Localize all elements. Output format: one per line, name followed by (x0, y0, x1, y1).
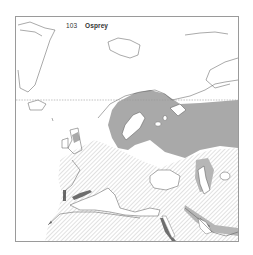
lake-ladoga (155, 122, 161, 126)
osprey-distribution-map (0, 0, 253, 255)
species-name: Osprey (85, 22, 108, 29)
species-number: 103 (66, 22, 77, 29)
map-title: 103 Osprey (66, 22, 108, 29)
lake-onega (163, 116, 167, 121)
aral-sea (220, 172, 230, 180)
